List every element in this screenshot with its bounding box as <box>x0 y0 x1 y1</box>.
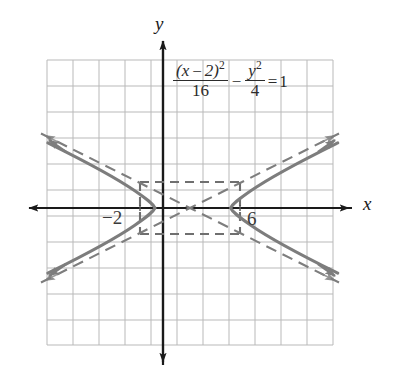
plot-canvas <box>0 0 394 378</box>
x-tick-label-six: 6 <box>247 209 257 228</box>
equation-second-fraction: y2 4 <box>245 62 264 99</box>
hyperbola-figure: y x −2 6 (x−2)2 16 − y2 4 = 1 <box>0 0 394 378</box>
equation-second-exponent: 2 <box>256 59 262 72</box>
x-axis-label: x <box>363 194 371 213</box>
grid <box>47 60 333 345</box>
x-tick-label-negative-two: −2 <box>102 208 122 227</box>
y-axis-label: y <box>155 14 163 33</box>
equation-first-numerator: (x−2)2 <box>173 62 228 81</box>
hyperbola-equation-annotation: (x−2)2 16 − y2 4 = 1 <box>172 62 288 99</box>
equation-variable-x: x <box>182 61 190 80</box>
equation-equals-sign: = <box>268 73 278 90</box>
equation-first-denominator: 16 <box>189 81 212 99</box>
equation-second-denominator: 4 <box>248 81 263 99</box>
equation-first-exponent: 2 <box>219 59 225 72</box>
equation-inner-minus: − <box>192 62 202 81</box>
equation-minus-operator: − <box>232 73 242 90</box>
equation-variable-y: y <box>248 61 256 80</box>
equation-second-numerator: y2 <box>245 62 264 81</box>
equation-right-hand-side: 1 <box>279 73 288 90</box>
equation-first-fraction: (x−2)2 16 <box>173 62 228 99</box>
